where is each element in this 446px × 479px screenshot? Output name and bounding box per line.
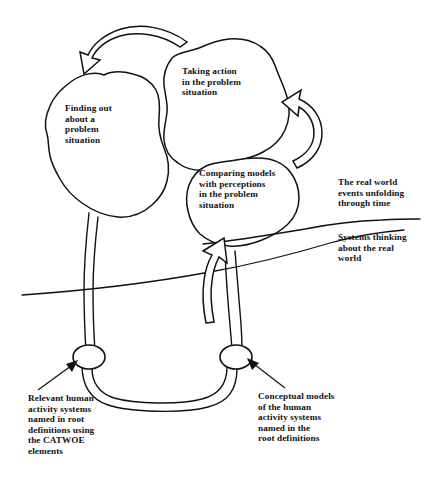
node-left-relevant-systems[interactable] [73,345,105,369]
annotation-real-world: The real world events unfolding through … [338,177,442,209]
blob-label-comparing-models: Comparing models with perceptions in the… [199,168,299,210]
stem-left-inner [93,217,98,352]
blob-label-taking-action: Taking action in the problem situation [182,66,268,98]
blob-label-finding-out: Finding out about a problem situation [65,103,143,145]
blob-taking-action[interactable] [164,39,289,170]
annotation-relevant-human-activity-systems: Relevant human activity systems named in… [28,393,140,456]
annotation-conceptual-models: Conceptual models of the human activity … [258,391,368,444]
ssm-diagram: Finding out about a problem situation Ta… [0,0,446,479]
stem-left-outer [84,213,89,352]
arrow-models-to-comparing[interactable] [203,238,227,323]
stem-right-outer [225,252,232,352]
node-right-conceptual-models[interactable] [220,345,252,369]
leader-arrowhead-left-node [66,360,78,372]
arrow-comparing-to-action[interactable] [282,90,322,168]
annotation-systems-thinking: Systems thinking about the real world [338,232,442,264]
